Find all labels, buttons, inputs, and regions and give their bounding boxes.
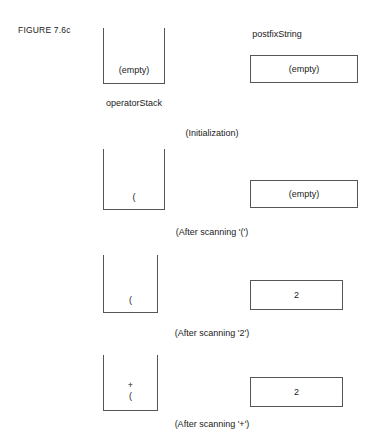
operator-stack-step-4-contents: + (: [104, 380, 157, 402]
postfix-string-value-step-2: (empty): [289, 189, 320, 199]
postfix-string-box-step-4: 2: [250, 377, 343, 407]
postfix-string-box-step-3: 2: [250, 280, 343, 310]
postfix-string-value-step-4: 2: [294, 387, 299, 397]
operator-stack-header-label: operatorStack: [84, 99, 184, 108]
operator-stack-step-3-item-0: (: [104, 295, 157, 306]
postfix-string-header-label: postfixString: [227, 30, 327, 39]
figure-number-label: FIGURE 7.6c: [18, 26, 71, 35]
postfix-string-box-step-1: (empty): [250, 55, 358, 83]
step-caption-2: (After scanning '('): [142, 228, 282, 237]
operator-stack-step-2-item-0: (: [104, 192, 164, 203]
operator-stack-step-1: (empty): [103, 28, 165, 84]
step-caption-4: (After scanning '+'): [142, 420, 282, 429]
operator-stack-step-2: (: [103, 149, 165, 210]
operator-stack-step-3-contents: (: [104, 295, 157, 306]
postfix-string-value-step-3: 2: [294, 290, 299, 300]
operator-stack-step-4-item-1: (: [104, 391, 157, 402]
operator-stack-step-3: (: [103, 255, 158, 313]
postfix-string-value-step-1: (empty): [289, 64, 320, 74]
postfix-string-box-step-2: (empty): [250, 180, 358, 208]
operator-stack-step-2-contents: (: [104, 192, 164, 203]
operator-stack-step-4-item-0: +: [104, 380, 157, 391]
figure-canvas: FIGURE 7.6c postfixString (empty) (empty…: [0, 0, 372, 436]
step-caption-3: (After scanning '2'): [142, 329, 282, 338]
operator-stack-step-4: + (: [103, 355, 158, 411]
step-caption-1: (Initialization): [142, 129, 282, 138]
operator-stack-step-1-contents: (empty): [104, 65, 164, 75]
